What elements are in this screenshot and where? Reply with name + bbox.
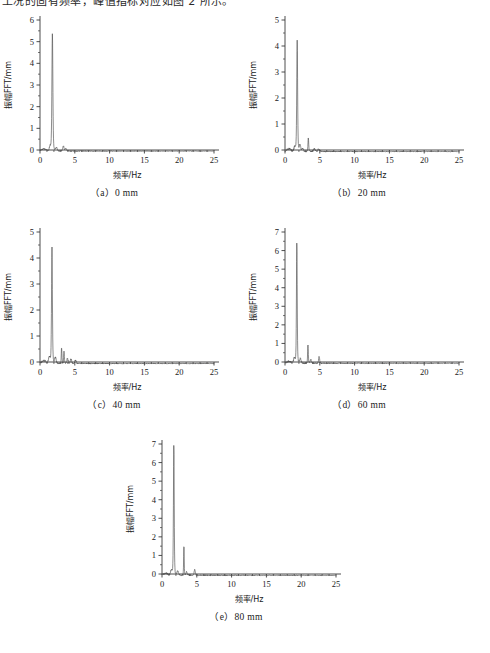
caption-e: （e）80 mm [122,609,350,623]
y-tick-label: 3 [275,301,279,311]
x-tick-label: 0 [38,367,42,377]
y-tick-label: 0 [275,145,279,155]
fft-spectrum-chart: 0123450510152025频率/Hz振幅FFT/mm [245,8,473,184]
y-tick-label: 7 [275,227,279,237]
spectrum-trace [285,40,459,152]
y-axis-title: 振幅FFT/mm [3,61,13,109]
plot-b: 0123450510152025频率/Hz振幅FFT/mm [245,8,473,184]
x-tick-label: 15 [140,155,149,165]
plot-c: 0123450510152025频率/Hz振幅FFT/mm [0,220,228,396]
y-tick-label: 1 [30,123,34,133]
y-tick-label: 6 [152,458,156,468]
y-tick-label: 2 [30,305,34,315]
panel-d: 012345670510152025频率/Hz振幅FFT/mm （d）60 mm [245,220,473,411]
y-tick-label: 2 [275,320,279,330]
y-tick-label: 1 [152,550,156,560]
y-tick-label: 5 [275,15,279,25]
x-axis-title: 频率/Hz [235,594,264,604]
y-tick-label: 0 [275,357,279,367]
panel-a: 01234560510152025频率/Hz振幅FFT/mm （a）0 mm [0,8,228,199]
x-tick-label: 10 [350,367,359,377]
x-tick-label: 25 [210,155,219,165]
x-tick-label: 0 [38,155,42,165]
y-tick-label: 2 [152,532,156,542]
fft-spectrum-chart: 0123450510152025频率/Hz振幅FFT/mm [0,220,228,396]
x-tick-label: 0 [160,579,164,589]
y-tick-label: 1 [275,338,279,348]
x-tick-label: 5 [318,155,322,165]
plot-a: 01234560510152025频率/Hz振幅FFT/mm [0,8,228,184]
x-tick-label: 15 [262,579,271,589]
x-tick-label: 20 [175,155,184,165]
caption-c: （c）40 mm [0,397,228,411]
y-axis-title: 振幅FFT/mm [248,61,258,109]
x-tick-label: 25 [332,579,341,589]
spectrum-trace [285,243,459,364]
fft-spectrum-chart: 012345670510152025频率/Hz振幅FFT/mm [122,432,350,608]
fft-spectrum-chart: 012345670510152025频率/Hz振幅FFT/mm [245,220,473,396]
plot-d: 012345670510152025频率/Hz振幅FFT/mm [245,220,473,396]
x-tick-label: 15 [140,367,149,377]
y-tick-label: 5 [152,476,156,486]
x-tick-label: 15 [385,155,394,165]
plot-e: 012345670510152025频率/Hz振幅FFT/mm [122,432,350,608]
panel-c: 0123450510152025频率/Hz振幅FFT/mm （c）40 mm [0,220,228,411]
x-tick-label: 5 [73,367,77,377]
y-tick-label: 7 [152,439,156,449]
axes: 012345670510152025 [152,439,341,589]
y-tick-label: 2 [275,93,279,103]
y-tick-label: 4 [30,58,35,68]
y-tick-label: 3 [30,80,34,90]
x-tick-label: 20 [175,367,184,377]
panel-b: 0123450510152025频率/Hz振幅FFT/mm （b）20 mm [245,8,473,199]
x-tick-label: 20 [297,579,306,589]
y-tick-label: 1 [275,119,279,129]
clipped-header-text-line: 工况的固有频率，峰值指标对应如图 2 所示。 [2,0,234,8]
caption-a: （a）0 mm [0,185,228,199]
x-tick-label: 5 [73,155,77,165]
y-tick-label: 2 [30,102,34,112]
x-tick-label: 10 [227,579,236,589]
y-tick-label: 4 [275,41,280,51]
spectrum-trace [40,34,214,152]
x-axis-title: 频率/Hz [358,382,387,392]
x-tick-label: 25 [210,367,219,377]
x-tick-label: 0 [283,367,287,377]
axes: 0123450510152025 [30,227,219,377]
spectrum-trace [40,247,214,364]
x-tick-label: 25 [455,155,464,165]
x-axis-title: 频率/Hz [113,170,142,180]
y-axis-title: 振幅FFT/mm [3,273,13,321]
panel-e: 012345670510152025频率/Hz振幅FFT/mm （e）80 mm [122,432,350,623]
y-axis-title: 振幅FFT/mm [125,485,135,533]
y-tick-label: 5 [30,37,34,47]
axes: 0123450510152025 [275,15,464,165]
x-tick-label: 0 [283,155,287,165]
y-tick-label: 4 [152,495,157,505]
x-tick-label: 10 [105,367,114,377]
axes: 01234560510152025 [30,15,219,165]
y-tick-label: 0 [152,569,156,579]
x-tick-label: 5 [195,579,199,589]
y-tick-label: 3 [30,279,34,289]
y-axis-title: 振幅FFT/mm [248,273,258,321]
y-tick-label: 5 [275,264,279,274]
y-tick-label: 0 [30,357,34,367]
x-tick-label: 20 [420,367,429,377]
y-tick-label: 3 [152,513,156,523]
x-tick-label: 10 [350,155,359,165]
x-tick-label: 25 [455,367,464,377]
y-tick-label: 6 [30,15,34,25]
y-tick-label: 3 [275,67,279,77]
x-tick-label: 20 [420,155,429,165]
y-tick-label: 1 [30,331,34,341]
y-tick-label: 4 [275,283,280,293]
x-axis-title: 频率/Hz [358,170,387,180]
y-tick-label: 4 [30,253,35,263]
x-axis-title: 频率/Hz [113,382,142,392]
x-tick-label: 15 [385,367,394,377]
y-tick-label: 6 [275,246,279,256]
axes: 012345670510152025 [275,227,464,377]
y-tick-label: 0 [30,145,34,155]
x-tick-label: 5 [318,367,322,377]
